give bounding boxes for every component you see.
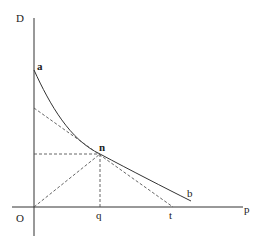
y-axis-label: D	[16, 12, 24, 24]
point-a-label: a	[37, 60, 43, 72]
origin-ray	[34, 154, 100, 207]
x-axis-label: p	[244, 203, 250, 215]
tangent-line	[34, 108, 173, 207]
demand-curve	[34, 70, 191, 201]
origin-label: O	[16, 212, 24, 224]
point-b-label: b	[187, 187, 193, 199]
point-n-label: n	[99, 141, 105, 153]
demand-curve-diagram: D p O a n b q t	[0, 0, 263, 240]
point-q-label: q	[96, 209, 102, 221]
point-t-label: t	[169, 209, 172, 221]
